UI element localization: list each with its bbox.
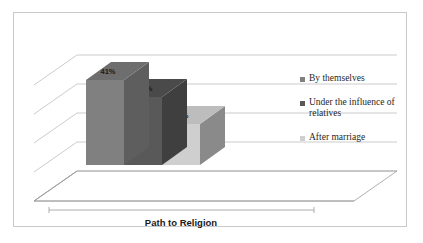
legend-swatch-icon-3 [300,136,305,141]
depth-lines-group [34,55,77,201]
depth-line-5 [34,55,77,85]
bar1-side [124,62,149,165]
depth-line-4 [34,84,77,114]
depth-line-3 [34,113,77,143]
legend-swatch-icon-2 [300,101,305,106]
legend-item-under-influence[interactable]: Under the influence of relatives [300,97,415,119]
legend-swatch-icon-1 [300,77,305,82]
legend-item-after-marriage[interactable]: After marriage [300,132,415,143]
bar-series-by-themselves[interactable]: 41% [86,62,149,165]
x-axis-title: Path to Religion [145,217,218,228]
bar1-data-label: 41% [100,67,115,76]
floor-plane [34,171,397,201]
legend-label-2: Under the influence of relatives [309,97,395,119]
chart-frame: 23% 36% 41% [13,12,407,227]
axis-left-edge [34,171,77,201]
legend-label-3: After marriage [309,132,365,143]
legend-label-1: By themselves [309,73,365,84]
bar1-front [86,80,124,165]
legend-item-by-themselves[interactable]: By themselves [300,73,415,84]
depth-line-2 [34,142,77,172]
category-tick-bracket [49,207,314,213]
chart-legend: By themselves Under the influence of rel… [300,73,415,156]
